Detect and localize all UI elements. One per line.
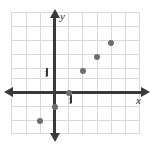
- coordinate-plane-figure: 1 1 x y: [0, 0, 153, 144]
- data-point: [66, 90, 72, 96]
- gridline-vertical: [97, 12, 98, 134]
- gridline-horizontal: [11, 78, 140, 79]
- y-axis-arrow-down-icon: [50, 133, 60, 142]
- x-axis-arrow-left-icon: [4, 87, 13, 97]
- gridline-horizontal: [11, 54, 140, 55]
- gridline-horizontal: [11, 120, 140, 121]
- gridline-vertical: [26, 12, 27, 134]
- gridline-horizontal: [11, 68, 140, 69]
- x-axis-label: x: [136, 95, 141, 106]
- grid-area: [11, 12, 140, 134]
- x-axis-line: [12, 91, 143, 94]
- data-point: [52, 104, 58, 110]
- gridline-horizontal: [11, 133, 140, 134]
- x-axis-arrow-right-icon: [141, 87, 150, 97]
- x-axis-unit-label: 1: [68, 97, 73, 106]
- gridline-horizontal: [11, 12, 140, 13]
- y-axis-line: [53, 17, 56, 135]
- y-axis-unit-label: 1: [44, 70, 49, 79]
- y-axis-label: y: [60, 11, 65, 22]
- gridline-vertical: [125, 12, 126, 134]
- gridline-horizontal: [11, 26, 140, 27]
- gridline-vertical: [68, 12, 69, 134]
- gridline-vertical: [11, 12, 12, 134]
- gridline-horizontal: [11, 40, 140, 41]
- y-axis-arrow-up-icon: [50, 9, 60, 18]
- gridline-vertical: [40, 12, 41, 134]
- gridline-vertical: [139, 12, 140, 134]
- gridline-horizontal: [11, 106, 140, 107]
- gridline-vertical: [111, 12, 112, 134]
